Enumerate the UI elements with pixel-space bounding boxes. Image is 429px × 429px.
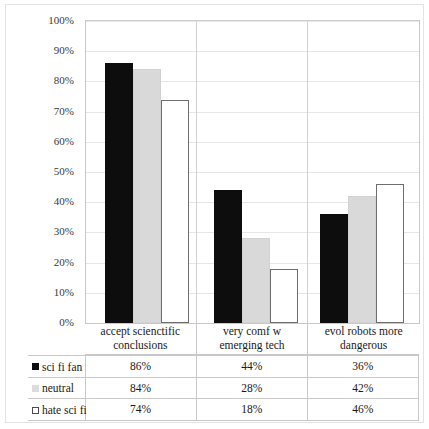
category-label-robots-line1: evol robots more: [325, 325, 403, 337]
cell-hate-accept: 74%: [85, 399, 196, 421]
legend-label-sci-fi-fan: sci fi fan: [42, 361, 82, 373]
y-tick-50: 50%: [54, 165, 74, 177]
legend-label-neutral: neutral: [42, 383, 74, 395]
legend-swatch-outlined-square-icon: [32, 407, 39, 414]
bar-fan-comfort: [214, 190, 242, 323]
y-tick-0: 0%: [59, 316, 74, 328]
y-tick-80: 80%: [54, 74, 74, 86]
cell-fan-robots: 36%: [307, 356, 418, 378]
bar-hate-robots: [376, 184, 404, 323]
legend-label-hate-sci-fi: hate sci fi: [42, 404, 87, 416]
legend-swatch-filled-square-icon: [32, 363, 39, 370]
category-label-accept-line1: accept scienctific: [101, 325, 181, 337]
category-label-row: accept scienctific conclusions very comf…: [85, 322, 419, 355]
data-table: sci fi fan 86% 44% 36% neutral 84% 28% 4…: [28, 355, 419, 421]
category-label-robots-line2: dangerous: [340, 339, 387, 351]
legend-swatch-gray-square-icon: [32, 385, 39, 392]
cell-neutral-accept: 84%: [85, 377, 196, 399]
y-tick-10: 10%: [54, 286, 74, 298]
chart-region: 100% 90% 80% 70% 60% 50% 40% 30% 20% 10%…: [0, 0, 429, 355]
cell-neutral-comfort: 28%: [196, 377, 307, 399]
bar-fan-accept: [105, 63, 133, 323]
bar-fan-robots: [320, 214, 348, 323]
table-row: hate sci fi 74% 18% 46%: [28, 399, 419, 421]
y-axis: 100% 90% 80% 70% 60% 50% 40% 30% 20% 10%…: [0, 0, 80, 355]
bar-neutral-comfort: [242, 238, 270, 323]
cell-hate-comfort: 18%: [196, 399, 307, 421]
table-row: neutral 84% 28% 42%: [28, 377, 419, 399]
cell-neutral-robots: 42%: [307, 377, 418, 399]
bar-hate-comfort: [270, 269, 298, 323]
y-tick-60: 60%: [54, 135, 74, 147]
category-label-comfort-line2: emerging tech: [219, 339, 284, 351]
legend-entry-sci-fi-fan: sci fi fan: [28, 356, 85, 378]
category-separator-2: [307, 21, 308, 323]
y-tick-90: 90%: [54, 44, 74, 56]
cell-fan-accept: 86%: [85, 356, 196, 378]
y-tick-30: 30%: [54, 225, 74, 237]
plot-area: [85, 20, 420, 324]
legend-entry-neutral: neutral: [28, 377, 85, 399]
cell-fan-comfort: 44%: [196, 356, 307, 378]
category-label-comfort-line1: very comf w: [223, 325, 281, 337]
legend-entry-hate-sci-fi: hate sci fi: [28, 399, 85, 421]
chart-figure: 100% 90% 80% 70% 60% 50% 40% 30% 20% 10%…: [0, 0, 429, 429]
cell-hate-robots: 46%: [307, 399, 418, 421]
category-label-accept: accept scienctific conclusions: [85, 322, 197, 354]
table-row: sci fi fan 86% 44% 36%: [28, 356, 419, 378]
category-label-comfort: very comf w emerging tech: [197, 322, 309, 354]
category-label-robots: evol robots more dangerous: [308, 322, 419, 354]
gridline-90: [86, 51, 419, 52]
bar-neutral-accept: [133, 69, 161, 323]
y-tick-20: 20%: [54, 256, 74, 268]
category-label-accept-line2: conclusions: [113, 339, 167, 351]
y-tick-70: 70%: [54, 105, 74, 117]
bar-hate-accept: [161, 100, 189, 324]
y-tick-40: 40%: [54, 195, 74, 207]
bar-neutral-robots: [348, 196, 376, 323]
category-separator-1: [196, 21, 197, 323]
gridline-100: [86, 21, 419, 22]
y-tick-100: 100%: [48, 14, 74, 26]
